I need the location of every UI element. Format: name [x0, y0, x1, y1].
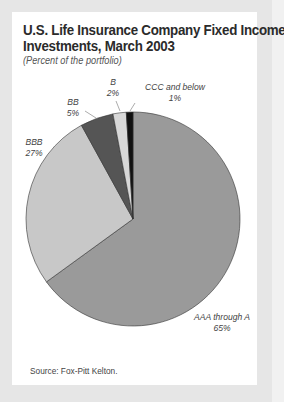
- label-bb-pct: 5%: [64, 108, 82, 119]
- label-ccc-pct: 1%: [144, 93, 207, 104]
- leader-line-ccc: [130, 103, 135, 111]
- label-aaa-name: AAA through A: [193, 312, 251, 323]
- label-ccc: CCC and below 1%: [144, 82, 207, 103]
- pie-slices: [26, 112, 240, 326]
- label-bbb-name: BBB: [23, 137, 45, 148]
- label-bbb: BBB 27%: [23, 137, 45, 158]
- pie-chart: [0, 0, 284, 402]
- label-b: B 2%: [104, 77, 122, 98]
- label-bb: BB 5%: [64, 97, 82, 118]
- label-b-pct: 2%: [104, 88, 122, 99]
- label-ccc-name: CCC and below: [144, 82, 207, 93]
- leader-line-bb: [85, 111, 96, 118]
- label-bb-name: BB: [64, 97, 82, 108]
- label-aaa-pct: 65%: [193, 323, 251, 334]
- label-b-name: B: [104, 77, 122, 88]
- leader-line-b: [116, 101, 120, 111]
- label-aaa: AAA through A 65%: [193, 312, 251, 333]
- label-bbb-pct: 27%: [23, 148, 45, 159]
